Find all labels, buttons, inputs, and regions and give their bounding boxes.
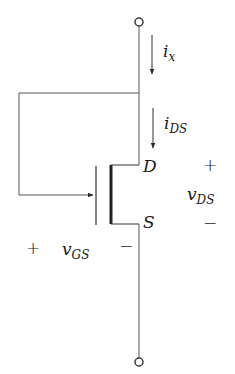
vds-label: vDS (187, 186, 214, 203)
vgs-minus: − (119, 238, 133, 255)
vds-plus: + (203, 157, 217, 174)
vds-minus: − (203, 215, 217, 232)
vds-subscript: DS (197, 193, 215, 207)
vgs-plus: + (26, 240, 40, 257)
vgs-subscript: GS (72, 248, 90, 262)
bottom-terminal (135, 358, 143, 366)
ix-label: ix (163, 43, 175, 60)
top-terminal (135, 18, 143, 26)
source-label: S (143, 214, 155, 231)
gate-feedback-wire (19, 93, 139, 195)
vgs-label: vGS (62, 241, 89, 258)
ids-label: iDS (164, 115, 187, 132)
ids-subscript: DS (169, 122, 187, 136)
ix-subscript: x (168, 50, 175, 64)
drain-label: D (143, 158, 157, 175)
